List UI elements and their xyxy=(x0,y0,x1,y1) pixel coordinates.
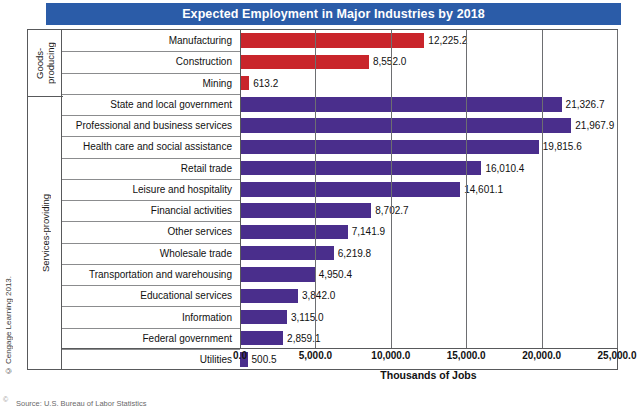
bar-track: 4,950.4 xyxy=(240,264,617,285)
bar-services xyxy=(240,225,348,239)
bar-value-label: 613.2 xyxy=(249,73,278,94)
group-label-goods-producing: Goods- producing xyxy=(29,31,61,95)
bar-value-label: 21,967.9 xyxy=(571,115,614,136)
bar-track: 3,842.0 xyxy=(240,285,617,306)
bar-services xyxy=(240,331,283,345)
bar-track: 14,601.1 xyxy=(240,179,617,200)
category-label: Educational services xyxy=(62,285,236,306)
bar-row: Information3,115.0 xyxy=(62,306,617,327)
bar-track: 21,326.7 xyxy=(240,94,617,115)
bar-row: Financial activities8,702.7 xyxy=(62,200,617,221)
bar-goods xyxy=(240,33,424,47)
category-label: Retail trade xyxy=(62,158,236,179)
bar-track: 21,967.9 xyxy=(240,115,617,136)
bar-track: 19,815.6 xyxy=(240,136,617,157)
x-tick-label: 25,000.0 xyxy=(598,350,637,361)
bar-track: 12,225.2 xyxy=(240,30,617,51)
category-label: Transportation and warehousing xyxy=(62,264,236,285)
bar-services xyxy=(240,267,315,281)
category-label: Information xyxy=(62,306,236,327)
bar-goods xyxy=(240,55,369,69)
copyright-credit: © Cengage Learning 2013. xyxy=(4,276,13,375)
bar-services xyxy=(240,289,298,303)
bar-goods xyxy=(240,76,249,90)
category-label: Financial activities xyxy=(62,200,236,221)
bar-value-label: 19,815.6 xyxy=(539,136,582,157)
bar-value-label: 2,859.1 xyxy=(283,328,320,349)
bar-track: 2,859.1 xyxy=(240,328,617,349)
chart-title-bar: Expected Employment in Major Industries … xyxy=(46,3,621,25)
bar-track: 7,141.9 xyxy=(240,221,617,242)
plot-area: Manufacturing12,225.2Construction8,552.0… xyxy=(62,30,617,369)
group-divider xyxy=(27,96,63,97)
bar-services xyxy=(240,182,460,196)
x-axis-title: Thousands of Jobs xyxy=(240,369,617,381)
bar-value-label: 4,950.4 xyxy=(315,264,352,285)
x-tick-label: 15,000.0 xyxy=(447,350,486,361)
bar-value-label: 8,702.7 xyxy=(371,200,408,221)
bar-value-label: 14,601.1 xyxy=(460,179,503,200)
bar-services xyxy=(240,246,334,260)
bar-services xyxy=(240,118,571,132)
bar-value-label: 16,010.4 xyxy=(481,158,524,179)
bar-row: Federal government2,859.1 xyxy=(62,328,617,349)
bar-row: Transportation and warehousing4,950.4 xyxy=(62,264,617,285)
category-label: Other services xyxy=(62,221,236,242)
bar-row: Educational services3,842.0 xyxy=(62,285,617,306)
bar-services xyxy=(240,310,287,324)
bar-rows: Manufacturing12,225.2Construction8,552.0… xyxy=(62,30,617,348)
bar-track: 613.2 xyxy=(240,73,617,94)
category-label: Manufacturing xyxy=(62,30,236,51)
source-mark-icon: © xyxy=(3,396,8,403)
category-label: Federal government xyxy=(62,328,236,349)
bar-row: Construction8,552.0 xyxy=(62,51,617,72)
bar-track: 8,702.7 xyxy=(240,200,617,221)
bar-value-label: 3,115.0 xyxy=(287,306,324,327)
bar-row: Health care and social assistance19,815.… xyxy=(62,136,617,157)
x-tick-label: 20,000.0 xyxy=(522,350,561,361)
bar-value-label: 21,326.7 xyxy=(562,94,605,115)
category-label: Utilities xyxy=(62,349,236,370)
bar-services xyxy=(240,161,481,175)
bar-row: State and local government21,326.7 xyxy=(62,94,617,115)
bar-track: 16,010.4 xyxy=(240,158,617,179)
bar-row: Manufacturing12,225.2 xyxy=(62,30,617,51)
category-label: Mining xyxy=(62,73,236,94)
bar-services xyxy=(240,203,371,217)
bar-row: Wholesale trade6,219.8 xyxy=(62,243,617,264)
bar-services xyxy=(240,140,539,154)
bar-track: 8,552.0 xyxy=(240,51,617,72)
bar-row: Professional and business services21,967… xyxy=(62,115,617,136)
bar-value-label: 7,141.9 xyxy=(348,221,385,242)
category-label: Construction xyxy=(62,51,236,72)
category-axis-line xyxy=(240,30,241,348)
bar-services xyxy=(240,97,562,111)
bar-value-label: 12,225.2 xyxy=(424,30,467,51)
x-axis-line xyxy=(62,348,617,349)
x-tick-label: 10,000.0 xyxy=(371,350,410,361)
category-label: Health care and social assistance xyxy=(62,136,236,157)
bar-row: Retail trade16,010.4 xyxy=(62,158,617,179)
source-note: Source: U.S. Bureau of Labor Statistics xyxy=(16,399,146,408)
bar-track: 6,219.8 xyxy=(240,243,617,264)
page-title: Expected Employment in Major Industries … xyxy=(182,7,485,21)
x-tick-label: 5,000.0 xyxy=(299,350,332,361)
x-tick-label: 0.0 xyxy=(233,350,247,361)
category-label: Leisure and hospitality xyxy=(62,179,236,200)
bar-row: Other services7,141.9 xyxy=(62,221,617,242)
bar-value-label: 3,842.0 xyxy=(298,285,335,306)
category-label: Wholesale trade xyxy=(62,243,236,264)
group-label-services-providing: Services-providing xyxy=(29,98,61,368)
bar-value-label: 6,219.8 xyxy=(334,243,371,264)
bar-row: Leisure and hospitality14,601.1 xyxy=(62,179,617,200)
x-axis-ticks: 0.05,000.010,000.015,000.020,000.025,000… xyxy=(240,350,617,364)
category-label: State and local government xyxy=(62,94,236,115)
category-label: Professional and business services xyxy=(62,115,236,136)
bar-track: 3,115.0 xyxy=(240,306,617,327)
bar-value-label: 8,552.0 xyxy=(369,51,406,72)
bar-row: Mining613.2 xyxy=(62,73,617,94)
